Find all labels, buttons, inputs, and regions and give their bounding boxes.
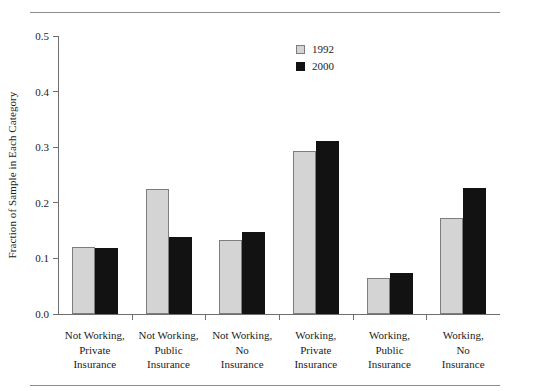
y-axis-tick: 0.1 (0, 252, 58, 264)
category-label-line: Private (58, 343, 132, 358)
plot-area (58, 36, 500, 314)
y-axis-tick-label: 0.4 (35, 86, 49, 98)
x-axis-tick-mark (426, 315, 427, 320)
category-label-4: Working,PrivateInsurance (279, 328, 353, 372)
legend-label-1992: 1992 (312, 44, 334, 55)
y-axis-tick-label: 0.0 (35, 308, 49, 320)
x-axis-tick-mark (353, 315, 354, 320)
category-label-line: Insurance (426, 357, 500, 372)
bar-2000-cat4 (316, 141, 339, 314)
category-label-5: Working,PublicInsurance (353, 328, 427, 372)
category-label-line: Insurance (205, 357, 279, 372)
bar-1992-cat3 (219, 240, 242, 315)
x-axis-tick-mark (279, 315, 280, 320)
bar-2000-cat1 (95, 248, 118, 314)
bottom-horizontal-rule (30, 385, 500, 386)
bar-1992-cat1 (72, 247, 95, 314)
legend-item-2000: 2000 (296, 58, 334, 75)
legend-swatch-2000 (296, 62, 305, 71)
category-label-line: Working, (426, 328, 500, 343)
category-label-line: Private (279, 343, 353, 358)
category-label-line: Not Working, (58, 328, 132, 343)
category-label-line: Insurance (279, 357, 353, 372)
y-axis-tick: 0.2 (0, 197, 58, 209)
category-label-3: Not Working,NoInsurance (205, 328, 279, 372)
x-axis-tick-mark (132, 315, 133, 320)
y-axis-tick-label: 0.1 (35, 252, 49, 264)
category-label-line: Public (353, 343, 427, 358)
y-axis-tick: 0.0 (0, 308, 58, 320)
bar-2000-cat5 (390, 273, 413, 314)
y-axis-tick: 0.3 (0, 141, 58, 153)
category-label-line: Working, (279, 328, 353, 343)
legend-item-1992: 1992 (296, 41, 334, 58)
y-axis-tick-label: 0.2 (35, 197, 49, 209)
category-label-line: Public (132, 343, 206, 358)
bar-2000-cat3 (242, 232, 265, 314)
category-label-line: No (205, 343, 279, 358)
bar-2000-cat2 (169, 237, 192, 314)
chart-legend: 1992 2000 (296, 41, 334, 75)
legend-swatch-1992 (296, 45, 305, 54)
category-label-line: Not Working, (205, 328, 279, 343)
bar-1992-cat5 (367, 278, 390, 314)
bar-chart-figure: Fraction of Sample in Each Category 0.00… (0, 0, 535, 391)
bar-1992-cat4 (293, 151, 316, 314)
category-label-6: Working,NoInsurance (426, 328, 500, 372)
y-axis-tick: 0.5 (0, 30, 58, 42)
category-label-2: Not Working,PublicInsurance (132, 328, 206, 372)
y-axis-title: Fraction of Sample in Each Category (6, 30, 20, 320)
bar-2000-cat6 (463, 188, 486, 314)
category-label-line: Insurance (132, 357, 206, 372)
category-label-line: Insurance (58, 357, 132, 372)
category-label-line: Not Working, (132, 328, 206, 343)
y-axis-tick-label: 0.5 (35, 30, 49, 42)
category-label-line: Working, (353, 328, 427, 343)
x-axis-tick-mark (205, 315, 206, 320)
y-axis-tick: 0.4 (0, 86, 58, 98)
legend-label-2000: 2000 (312, 61, 334, 72)
y-axis-tick-label: 0.3 (35, 141, 49, 153)
category-label-1: Not Working,PrivateInsurance (58, 328, 132, 372)
category-label-line: No (426, 343, 500, 358)
bar-1992-cat2 (146, 189, 169, 314)
bar-1992-cat6 (440, 218, 463, 314)
top-horizontal-rule (30, 12, 500, 13)
category-label-line: Insurance (353, 357, 427, 372)
